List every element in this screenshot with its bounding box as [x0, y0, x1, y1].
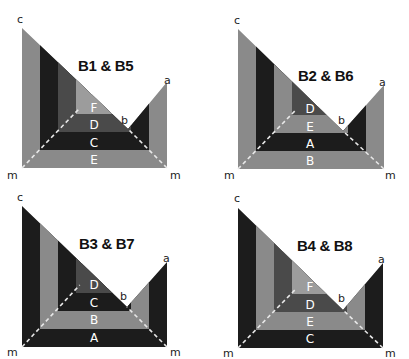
- band-label-2: A: [306, 138, 314, 150]
- band-d: [292, 0, 330, 115]
- point-m-right-label: m: [170, 347, 181, 358]
- point-m-left-label: m: [223, 348, 234, 359]
- point-c-label: c: [17, 14, 23, 25]
- panel-b1-b5: B1 & B5 c a b m m E C D F: [0, 0, 205, 180]
- band-label-3: D: [305, 299, 314, 311]
- point-a-label: a: [378, 254, 385, 265]
- band-label-4: D: [305, 103, 314, 115]
- band-label-4: F: [307, 281, 314, 293]
- point-m-right-label: m: [385, 348, 396, 359]
- panel-title: B3 & B7: [79, 235, 134, 252]
- point-b-label: b: [338, 115, 345, 126]
- panel-b4-b8: B4 & B8 c a b m m C E D F: [214, 180, 409, 359]
- band-label-4: D: [89, 279, 98, 291]
- band-label-2: C: [90, 137, 98, 149]
- point-a-label: a: [379, 77, 386, 88]
- band-label-2: E: [306, 316, 314, 328]
- panel-title: B4 & B8: [297, 237, 352, 254]
- point-c-label: c: [234, 193, 240, 204]
- point-a-label: a: [163, 253, 170, 264]
- panel-title: B2 & B6: [298, 67, 353, 84]
- band-label-4: F: [91, 102, 98, 114]
- point-a-label: a: [164, 75, 171, 86]
- point-b-label: b: [338, 293, 345, 304]
- band-label-3: C: [90, 297, 98, 309]
- point-c-label: c: [234, 15, 240, 26]
- point-m-left-label: m: [7, 347, 18, 358]
- band-label-1: E: [90, 154, 98, 166]
- panel-b2-b6: B2 & B6 c a b m m B A E D: [214, 0, 409, 180]
- band-label-1: C: [306, 333, 314, 345]
- band-diagram: [0, 0, 205, 180]
- point-b-label: b: [120, 291, 127, 302]
- panel-b3-b7: B3 & B7 c a b m m A B C D: [0, 180, 205, 359]
- point-c-label: c: [17, 192, 23, 203]
- band-label-3: D: [89, 119, 98, 131]
- band-label-1: B: [306, 155, 314, 167]
- band-label-3: E: [306, 121, 314, 133]
- band-label-1: A: [90, 332, 98, 344]
- band-diagram: [214, 0, 409, 180]
- point-b-label: b: [121, 115, 128, 126]
- band-label-2: B: [90, 314, 98, 326]
- band-diagram: [0, 180, 205, 359]
- panel-title: B1 & B5: [78, 57, 133, 74]
